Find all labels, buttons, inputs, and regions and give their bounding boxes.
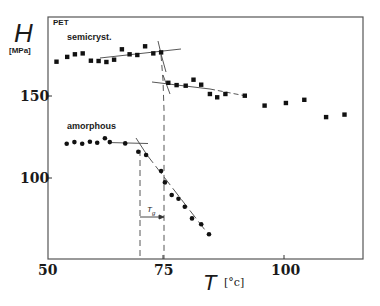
x-tick-100: 100	[271, 262, 300, 278]
data-point-circle	[136, 149, 141, 154]
data-point-circle	[199, 222, 204, 227]
data-point-square	[284, 101, 288, 105]
data-point-square	[81, 51, 85, 55]
data-point-circle	[183, 205, 188, 210]
data-point-circle	[108, 140, 113, 145]
data-point-square	[89, 59, 93, 63]
data-point-circle	[72, 140, 77, 145]
data-point-square	[215, 95, 219, 99]
data-point-square	[73, 52, 77, 56]
data-point-square	[342, 112, 346, 116]
pet-label: PET	[53, 18, 69, 27]
data-point-square	[174, 83, 178, 87]
x-axis-unit: [°c]	[224, 276, 244, 289]
x-tick-75: 75	[154, 262, 173, 278]
data-point-circle	[64, 141, 69, 146]
data-point-circle	[144, 153, 149, 158]
data-point-circle	[88, 140, 93, 145]
data-point-square	[120, 47, 124, 51]
data-point-square	[191, 78, 195, 82]
tg-label: Tg	[147, 205, 155, 216]
series-amorphous	[64, 136, 211, 237]
y-tick-150: 150	[20, 88, 49, 104]
data-point-square	[324, 115, 328, 119]
data-point-square	[127, 52, 131, 56]
glass-transition-guides	[140, 55, 164, 259]
tg-interval-arrow	[140, 215, 164, 219]
data-point-square	[104, 60, 108, 64]
x-axis-symbol: T	[203, 270, 216, 296]
tangent-lines	[100, 41, 246, 230]
data-point-circle	[159, 169, 164, 174]
data-point-square	[143, 44, 147, 48]
data-point-square	[262, 103, 266, 107]
data-point-square	[96, 59, 100, 63]
data-point-square	[302, 98, 306, 102]
plot-frame	[48, 17, 363, 259]
data-point-circle	[103, 136, 108, 141]
data-point-square	[54, 60, 58, 64]
data-point-square	[112, 58, 116, 62]
data-point-circle	[176, 197, 181, 202]
x-tick-50: 50	[38, 262, 57, 278]
semicrystalline-label: semicryst.	[67, 32, 112, 42]
y-axis-unit: [MPa]	[9, 46, 31, 55]
data-point-square	[223, 92, 227, 96]
data-point-square	[243, 94, 247, 98]
series-semicrystalline	[54, 44, 346, 119]
data-point-square	[151, 51, 155, 55]
data-point-square	[166, 81, 170, 85]
data-point-circle	[207, 232, 212, 237]
data-point-circle	[95, 140, 100, 145]
data-point-circle	[80, 141, 85, 146]
data-point-square	[135, 53, 139, 57]
data-point-square	[208, 92, 212, 96]
data-point-circle	[163, 180, 168, 185]
data-point-circle	[123, 141, 128, 146]
y-tick-100: 100	[20, 170, 49, 186]
tg-sub: g	[152, 210, 155, 216]
dashed-line-75	[161, 55, 164, 259]
y-axis-symbol: H	[14, 18, 33, 49]
data-point-square	[199, 83, 203, 87]
data-point-circle	[190, 216, 195, 221]
data-point-square	[65, 55, 69, 59]
data-point-square	[159, 50, 163, 54]
data-point-square	[184, 84, 188, 88]
data-point-circle	[169, 193, 174, 198]
amorphous-label: amorphous	[67, 121, 116, 131]
hardness-temperature-chart	[0, 0, 380, 306]
